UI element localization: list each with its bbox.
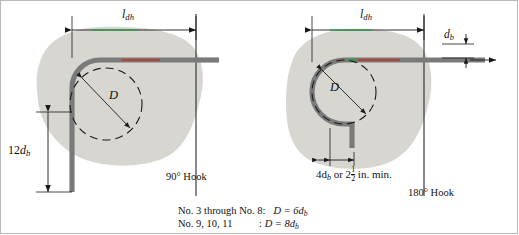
label-ldh-right: ldh (360, 7, 372, 22)
label-db: db (444, 28, 454, 42)
label-12db: 12db (8, 143, 30, 158)
note-row-1: No. 3 through No. 8: D = 6db (178, 205, 308, 218)
figure-container: ldh 12db D 90° Hook ldh db D 4db or 212 … (0, 0, 519, 235)
note-row-2: No. 9, 10, 11 : D = 8db (178, 218, 299, 231)
concrete-shading-left (37, 27, 203, 166)
label-D-right: D (330, 80, 339, 95)
concrete-shading-right (286, 29, 431, 169)
label-D-left: D (109, 88, 118, 103)
caption-180-hook: 180° Hook (408, 187, 454, 198)
hook-details-diagram (0, 0, 519, 235)
caption-90-hook: 90° Hook (166, 171, 207, 182)
label-ldh-left: ldh (122, 7, 134, 22)
label-tail-dimension: 4db or 212 in. min. (316, 166, 392, 183)
